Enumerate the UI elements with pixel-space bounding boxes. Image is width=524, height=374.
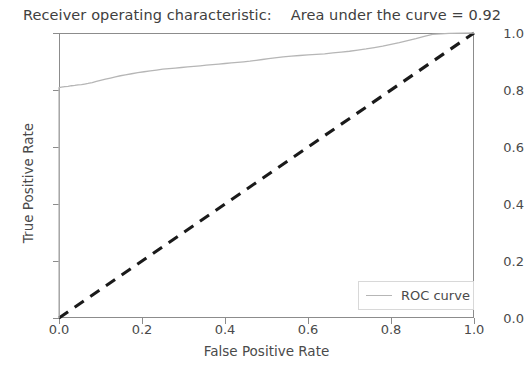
x-tick-label: 1.0 xyxy=(444,322,504,337)
x-tick-mark xyxy=(225,318,226,324)
x-tick-label: 0.4 xyxy=(195,322,255,337)
x-tick-label: 0.2 xyxy=(112,322,172,337)
y-tick-label: 1.0 xyxy=(480,26,524,41)
x-tick-label: 0.6 xyxy=(278,322,338,337)
chart-title: Receiver operating characteristic: Area … xyxy=(0,7,524,23)
x-tick-mark xyxy=(474,318,475,324)
legend: ROC curve xyxy=(358,281,474,310)
y-axis-label: True Positive Rate xyxy=(20,93,36,273)
x-tick-mark xyxy=(142,318,143,324)
y-tick-label: 0.2 xyxy=(480,254,524,269)
x-axis-label: False Positive Rate xyxy=(59,343,474,359)
x-tick-label: 0.0 xyxy=(29,322,89,337)
plot-canvas xyxy=(59,33,474,318)
y-tick-label: 0.4 xyxy=(480,197,524,212)
x-tick-label: 0.8 xyxy=(361,322,421,337)
x-tick-mark xyxy=(308,318,309,324)
roc-figure: Receiver operating characteristic: Area … xyxy=(0,0,524,374)
x-tick-mark xyxy=(391,318,392,324)
legend-label-roc-curve: ROC curve xyxy=(401,288,470,303)
y-tick-label: 0.8 xyxy=(480,83,524,98)
y-tick-label: 0.6 xyxy=(480,140,524,155)
legend-swatch-roc-curve xyxy=(366,295,392,296)
